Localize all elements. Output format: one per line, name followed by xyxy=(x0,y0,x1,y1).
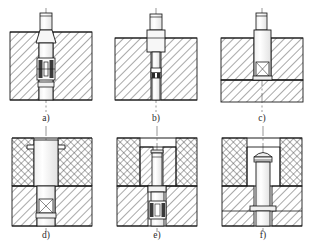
panel-label-b: b) xyxy=(152,113,160,124)
drawing-sheet: a) b) xyxy=(0,0,314,243)
pin-d xyxy=(34,140,58,226)
lower-plate-c xyxy=(221,80,303,102)
panel-label-f: f) xyxy=(260,230,266,241)
panel-label-e: e) xyxy=(153,230,160,241)
panel-label-d: d) xyxy=(42,230,50,241)
panel-e: e) xyxy=(117,126,197,241)
panel-label-c: c) xyxy=(258,113,265,124)
panel-label-a: a) xyxy=(42,113,49,124)
panel-d: d) xyxy=(12,126,92,241)
